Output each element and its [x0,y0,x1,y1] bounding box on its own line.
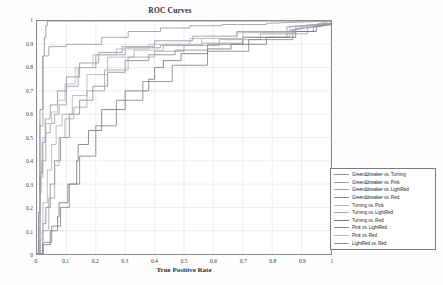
chart-title: ROC Curves [0,6,340,15]
legend-item[interactable]: Green&breaker vs. LightRed [333,186,433,194]
legend-rows: Green&breaker vs. TurningGreen&breaker v… [333,171,433,247]
legend-item[interactable]: Pink vs. LightRed [333,224,433,232]
legend-color-swatch [334,197,349,198]
legend-color-swatch [334,212,349,213]
x-tick-label: 0.3 [121,258,128,264]
y-tick-label: 1 [20,17,33,23]
figure-canvas: ROC Curves False Positive Rate True Posi… [0,0,443,285]
x-tick-label: 0.5 [181,258,188,264]
y-tick-label: 0.9 [20,41,33,47]
legend-item-label: Green&breaker vs. Turning [352,172,406,177]
legend-item-label: Pink vs. Red [352,233,377,238]
x-tick-label: 0.2 [92,258,99,264]
y-tick-label: 0.5 [20,135,33,141]
legend-item[interactable]: Green&breaker vs. Red [333,194,433,202]
x-tick-label: 0.4 [151,258,158,264]
legend-color-swatch [334,182,349,183]
legend-item-label: Green&breaker vs. LightRed [352,187,409,192]
legend-color-swatch [334,189,349,190]
plot-area [36,20,332,255]
chart-legend: Green&breaker vs. TurningGreen&breaker v… [330,168,436,250]
y-tick-label: 0.8 [20,64,33,70]
legend-item-label: LightRed vs. Red [352,241,386,246]
x-tick-label: 0 [35,258,38,264]
legend-color-swatch [334,235,349,236]
y-tick-label: 0 [20,252,33,258]
x-tick-label: 0.8 [269,258,276,264]
x-axis-label: True Positive Rate [36,266,332,274]
legend-item[interactable]: Green&breaker vs. Turning [333,171,433,179]
legend-color-swatch [334,227,349,228]
legend-item-label: Turning vs. LightRed [352,210,393,215]
x-tick-label: 1 [331,258,334,264]
roc-curves-figure: ROC Curves False Positive Rate True Posi… [0,0,443,285]
legend-color-swatch [334,243,349,244]
legend-item[interactable]: Turning vs. Pink [333,201,433,209]
legend-item-label: Green&breaker vs. Red [352,195,399,200]
legend-item[interactable]: Green&breaker vs. Pink [333,179,433,187]
roc-curves-plot [37,21,331,254]
y-tick-label: 0.3 [20,182,33,188]
legend-color-swatch [334,205,349,206]
legend-color-swatch [334,174,349,175]
y-tick-label: 0.6 [20,111,33,117]
x-tick-label: 0.6 [210,258,217,264]
y-tick-label: 0.4 [20,158,33,164]
y-tick-label: 0.7 [20,88,33,94]
legend-item[interactable]: Turning vs. LightRed [333,209,433,217]
x-tick-label: 0.7 [240,258,247,264]
legend-item[interactable]: Pink vs. Red [333,232,433,240]
legend-item[interactable]: LightRed vs. Red [333,239,433,247]
legend-item[interactable]: Turning vs. Red [333,217,433,225]
legend-item-label: Turning vs. Red [352,218,383,223]
legend-item-label: Green&breaker vs. Pink [352,180,400,185]
legend-item-label: Turning vs. Pink [352,203,384,208]
y-tick-label: 0.2 [20,205,33,211]
legend-item-label: Pink vs. LightRed [352,225,387,230]
x-tick-label: 0.9 [299,258,306,264]
x-tick-label: 0.1 [62,258,69,264]
legend-color-swatch [334,220,349,221]
y-tick-label: 0.1 [20,229,33,235]
